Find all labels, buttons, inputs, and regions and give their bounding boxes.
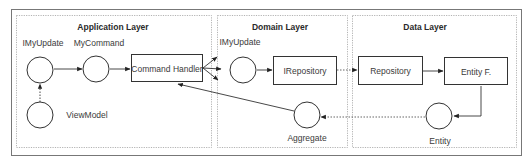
entity-circle[interactable] [426,103,452,129]
aggregate-circle[interactable] [294,102,320,128]
domain-layer-title: Domain Layer [252,22,308,32]
application-layer-title: Application Layer [77,22,148,32]
edge-handler-to-domain-2 [203,68,221,69]
domain-imyupdate-circle[interactable] [230,57,256,83]
irepository-label: IRepository [274,57,336,85]
data-layer-title: Data Layer [403,22,446,32]
repository-label: Repository [359,57,422,85]
app-imyupdate-circle[interactable] [27,57,53,83]
app-mycommand-label: MyCommand [74,38,125,48]
aggregate-label: Aggregate [287,133,326,143]
edge-handler-to-domain-1 [203,57,217,68]
edge-entity-factory-to-entity [454,86,481,116]
edge-aggregate-to-handler [178,84,294,111]
edge-handler-to-domain-3 [203,68,218,80]
command-handler-label: Command Handler [132,55,202,82]
domain-imyupdate-label: IMyUpdate [219,37,260,47]
app-mycommand-circle[interactable] [83,56,109,82]
app-imyupdate-label: IMyUpdate [22,38,63,48]
entity-factory-label: Entity F. [445,58,507,85]
viewmodel-label: ViewModel [66,110,107,120]
entity-label: Entity [429,136,450,146]
viewmodel-circle[interactable] [27,102,53,128]
